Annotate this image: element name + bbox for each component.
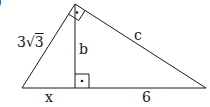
left-segment-label: x — [45, 90, 53, 104]
part-label: ) — [0, 0, 2, 8]
right-segment-label: 6 — [142, 90, 151, 104]
hypotenuse-label: c — [134, 28, 142, 42]
right-side-line — [75, 4, 206, 88]
radical-icon: √ — [26, 34, 35, 50]
altitude-label: b — [79, 42, 88, 56]
left-side-label: 3√3 — [17, 35, 44, 49]
triangle-figure — [0, 0, 210, 107]
left-side-coefficient: 3 — [17, 34, 26, 50]
left-side-radicand: 3 — [35, 34, 44, 50]
right-angle-marker-bottom — [75, 74, 89, 88]
right-angle-marker-top — [69, 10, 86, 20]
right-triangle-diagram: ) 3√3 b c x 6 — [0, 0, 210, 107]
